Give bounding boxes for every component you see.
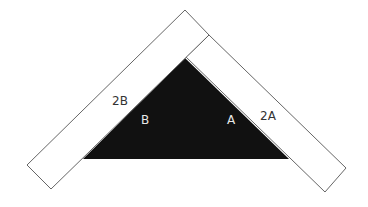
label-b: B (141, 113, 149, 127)
label-a: A (227, 113, 236, 127)
label-2a: 2A (260, 109, 277, 123)
triangle-strips-diagram: 2B B A 2A (0, 0, 368, 207)
label-2b: 2B (112, 94, 128, 108)
